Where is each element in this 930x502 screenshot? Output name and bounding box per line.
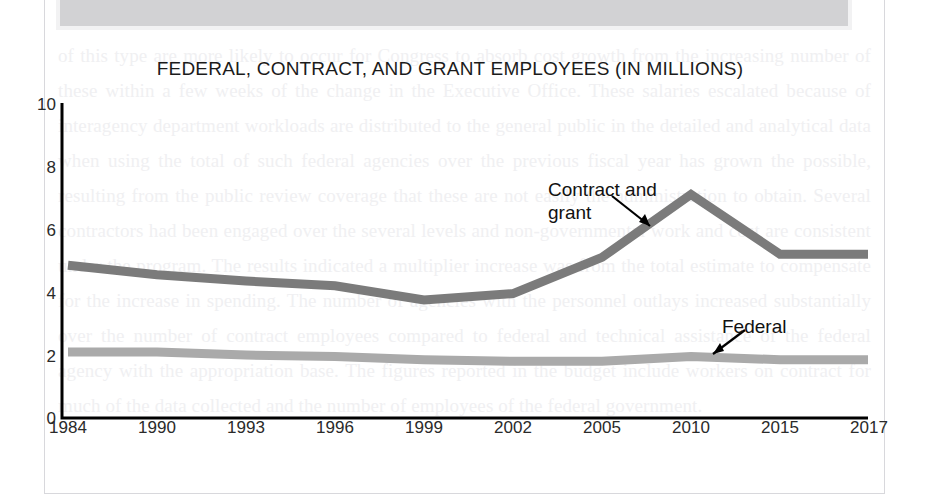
series-line-contract-and-grant xyxy=(68,194,868,300)
chart-axis-lines xyxy=(62,103,868,418)
series-label-federal: Federal xyxy=(722,315,786,338)
chart-figure: FEDERAL, CONTRACT, AND GRANT EMPLOYEES (… xyxy=(0,0,930,502)
series-label-contract-and-grant: Contract and grant xyxy=(548,178,657,224)
chart-plot-area xyxy=(0,0,930,502)
series-line-federal xyxy=(68,352,868,361)
